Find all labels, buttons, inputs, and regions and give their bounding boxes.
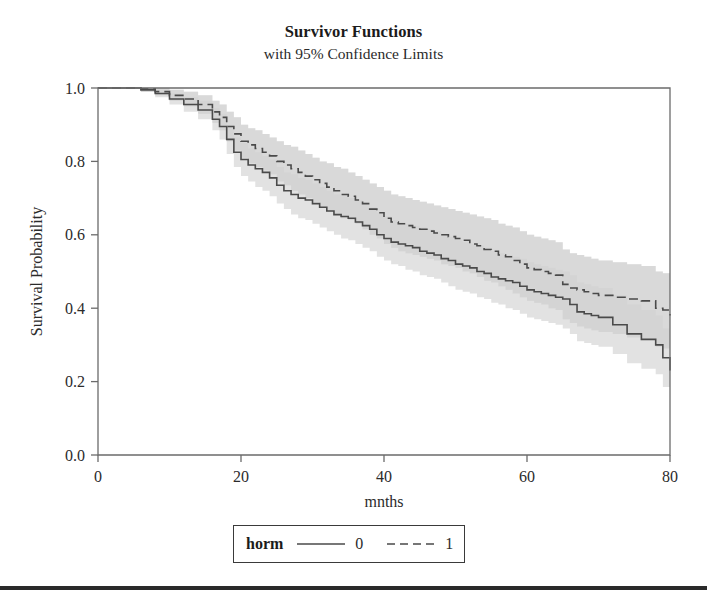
dashed-line-swatch-icon [385,538,437,550]
figure-container: Survivor Functions with 95% Confidence L… [0,0,707,600]
footer-rule [0,586,707,590]
solid-line-swatch-icon [295,538,347,550]
legend-entry-1[interactable]: 1 [385,535,453,553]
x-tick-label: 0 [94,468,102,485]
legend-title: horm [246,535,283,553]
y-tick-label: 1.0 [65,80,85,97]
y-tick-label: 0.2 [65,373,85,390]
y-tick-label: 0.4 [65,300,85,317]
x-tick-label: 60 [519,468,535,485]
legend-entry-0[interactable]: 0 [295,535,363,553]
x-tick-label: 80 [662,468,678,485]
y-axis-label: Survival Probability [28,207,46,336]
x-tick-label: 20 [233,468,249,485]
y-tick-label: 0.0 [65,447,85,464]
x-axis-label: mnths [364,493,403,510]
y-tick-label: 0.6 [65,226,85,243]
survival-plot: 0.00.20.40.60.81.0020406080mnthsSurvival… [0,0,707,520]
x-tick-label: 40 [376,468,392,485]
legend-label-1: 1 [445,535,453,553]
legend: horm 0 1 [233,525,465,563]
y-tick-label: 0.8 [65,153,85,170]
legend-label-0: 0 [355,535,363,553]
